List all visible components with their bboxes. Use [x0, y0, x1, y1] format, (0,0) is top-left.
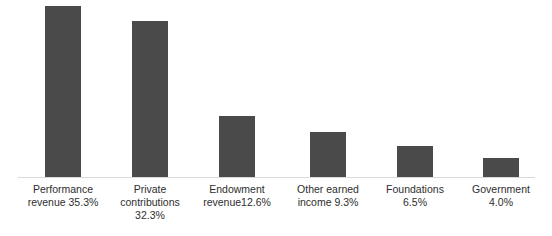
bar-other-earned-income: [310, 132, 346, 177]
plot-area: [0, 0, 552, 178]
bar-private-contributions: [132, 21, 168, 177]
tick-label-private-contributions: Private contributions 32.3%: [104, 183, 196, 222]
tick-label-performance-revenue: Performance revenue 35.3%: [17, 183, 109, 209]
tick-label-other-earned-income: Other earned income 9.3%: [282, 183, 374, 209]
tick-label-government: Government 4.0%: [455, 183, 547, 209]
bar-foundations: [397, 146, 433, 177]
tick-label-foundations: Foundations 6.5%: [369, 183, 461, 209]
x-axis-tick-labels: Performance revenue 35.3% Private contri…: [0, 183, 552, 236]
bar-chart: Performance revenue 35.3% Private contri…: [0, 0, 552, 236]
bar-performance-revenue: [45, 6, 81, 177]
tick-label-endowment-revenue: Endowment revenue12.6%: [191, 183, 283, 209]
x-axis-baseline: [18, 177, 535, 178]
bar-endowment-revenue: [219, 116, 255, 177]
bar-government: [483, 158, 519, 177]
